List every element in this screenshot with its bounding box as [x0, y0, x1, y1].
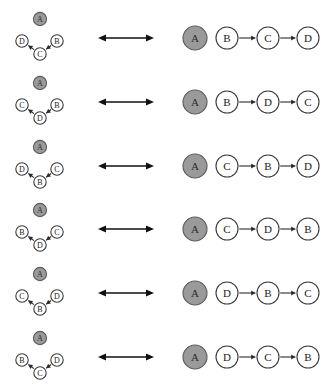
left-graph-node-D-circle	[16, 163, 28, 175]
right-graph-node-D-circle	[257, 218, 279, 240]
right-graph-panel: ADBC	[156, 263, 326, 327]
left-graph-node-C-circle	[34, 367, 46, 379]
bidirectional-equivalence-arrow	[96, 199, 156, 263]
right-graph-node-B-circle	[216, 27, 238, 49]
right-graph-node-A-circle	[183, 26, 207, 50]
left-graph-node-B-circle	[16, 354, 28, 366]
left-graph-panel: ACBD	[0, 72, 96, 136]
right-graph-panel: ADCB	[156, 327, 326, 391]
left-graph-node-B-circle	[51, 35, 63, 47]
right-chain-edge-D-to-C	[280, 100, 295, 105]
right-graph-node-B-circle	[216, 91, 238, 113]
right-graph-node-A-circle	[183, 154, 207, 178]
right-chain-edge-B-to-D	[280, 164, 295, 169]
right-graph-diagram: ADBC	[156, 263, 326, 327]
equivalence-row: ACDBADBC	[0, 263, 326, 327]
left-graph-node-C-circle	[51, 163, 63, 175]
right-graph-node-D-circle	[216, 282, 238, 304]
equivalence-arrow-panel	[96, 263, 156, 327]
right-graph-diagram: ABDC	[156, 72, 326, 136]
left-graph-panel: ADCB	[0, 136, 96, 200]
left-graph-diagram: ABDC	[0, 327, 96, 391]
left-graph-panel: ACDB	[0, 263, 96, 327]
right-chain-edge-C-to-B	[239, 164, 255, 169]
bidirectional-equivalence-arrow	[96, 8, 156, 72]
right-graph-panel: ABCD	[156, 8, 326, 72]
left-graph-edge-C-to-B	[28, 365, 34, 369]
equivalence-arrow-panel	[96, 136, 156, 200]
left-graph-node-B-circle	[51, 99, 63, 111]
left-graph-edge-D-to-C	[46, 364, 51, 368]
bidirectional-equivalence-arrow	[96, 72, 156, 136]
bidirectional-equivalence-arrow	[96, 327, 156, 391]
left-graph-node-D-circle	[34, 112, 46, 124]
left-graph-node-A-circle	[33, 140, 46, 153]
figure-canvas: ADBCABCDACBDABDCADCBACBDABCDACDBACDBADBC…	[0, 0, 326, 391]
right-graph-diagram: ADCB	[156, 327, 326, 391]
left-graph-node-C-circle	[51, 226, 63, 238]
right-chain-edge-C-to-B	[280, 355, 295, 360]
left-graph-diagram: ACBD	[0, 72, 96, 136]
equivalence-arrow-panel	[96, 72, 156, 136]
right-chain-edge-B-to-C	[239, 36, 255, 41]
left-graph-edge-C-to-D	[46, 236, 51, 240]
right-graph-panel: ACDB	[156, 199, 326, 263]
right-graph-node-B-circle	[257, 282, 279, 304]
right-graph-node-B-circle	[257, 155, 279, 177]
left-graph-diagram: ADCB	[0, 136, 96, 200]
right-graph-node-A-circle	[183, 281, 207, 305]
left-graph-edge-D-to-C	[28, 110, 34, 114]
left-graph-diagram: ACDB	[0, 263, 96, 327]
equivalence-row: ABCDACDB	[0, 199, 326, 263]
left-graph-edge-B-to-D	[28, 174, 34, 178]
left-graph-diagram: ADBC	[0, 8, 96, 72]
left-graph-diagram: ABCD	[0, 199, 96, 263]
right-graph-panel: ABDC	[156, 72, 326, 136]
equivalence-row: ABDCADCB	[0, 327, 326, 391]
left-graph-panel: ADBC	[0, 8, 96, 72]
left-graph-panel: ABDC	[0, 327, 96, 391]
left-graph-node-D-circle	[16, 35, 28, 47]
right-chain-edge-C-to-D	[239, 227, 255, 232]
right-graph-node-A-circle	[183, 217, 207, 241]
right-graph-node-C-circle	[257, 346, 279, 368]
left-graph-node-A-circle	[33, 203, 46, 216]
bidirectional-equivalence-arrow	[96, 263, 156, 327]
equivalence-arrow-panel	[96, 199, 156, 263]
right-graph-node-D-circle	[297, 155, 319, 177]
right-chain-edge-D-to-B	[280, 227, 295, 232]
right-graph-node-B-circle	[297, 218, 319, 240]
equivalence-row: ADCBACBD	[0, 136, 326, 200]
left-graph-node-B-circle	[16, 226, 28, 238]
right-graph-node-C-circle	[257, 27, 279, 49]
right-graph-node-A-circle	[183, 90, 207, 114]
right-graph-diagram: ABCD	[156, 8, 326, 72]
left-graph-node-C-circle	[16, 99, 28, 111]
right-graph-node-C-circle	[216, 218, 238, 240]
right-chain-edge-B-to-C	[280, 291, 295, 296]
equivalence-arrow-panel	[96, 8, 156, 72]
right-graph-diagram: ACDB	[156, 199, 326, 263]
right-graph-node-B-circle	[297, 346, 319, 368]
right-graph-node-D-circle	[297, 27, 319, 49]
left-graph-edge-B-to-C	[28, 301, 34, 305]
left-graph-node-B-circle	[34, 176, 46, 188]
right-graph-node-A-circle	[183, 345, 207, 369]
left-graph-node-D-circle	[51, 354, 63, 366]
equivalence-row: ADBCABCD	[0, 8, 326, 72]
left-graph-panel: ABCD	[0, 199, 96, 263]
left-graph-edge-D-to-B	[28, 237, 34, 241]
right-graph-node-C-circle	[297, 282, 319, 304]
left-graph-node-A-circle	[33, 12, 46, 25]
left-graph-node-C-circle	[34, 48, 46, 60]
right-chain-edge-D-to-C	[239, 355, 255, 360]
right-chain-edge-B-to-D	[239, 100, 255, 105]
left-graph-node-A-circle	[33, 267, 46, 280]
right-graph-diagram: ACBD	[156, 136, 326, 200]
left-graph-node-A-circle	[33, 76, 46, 89]
left-graph-edge-C-to-B	[46, 173, 51, 177]
right-chain-edge-D-to-B	[239, 291, 255, 296]
right-graph-panel: ACBD	[156, 136, 326, 200]
left-graph-node-A-circle	[33, 331, 46, 344]
left-graph-edge-B-to-C	[46, 45, 51, 49]
